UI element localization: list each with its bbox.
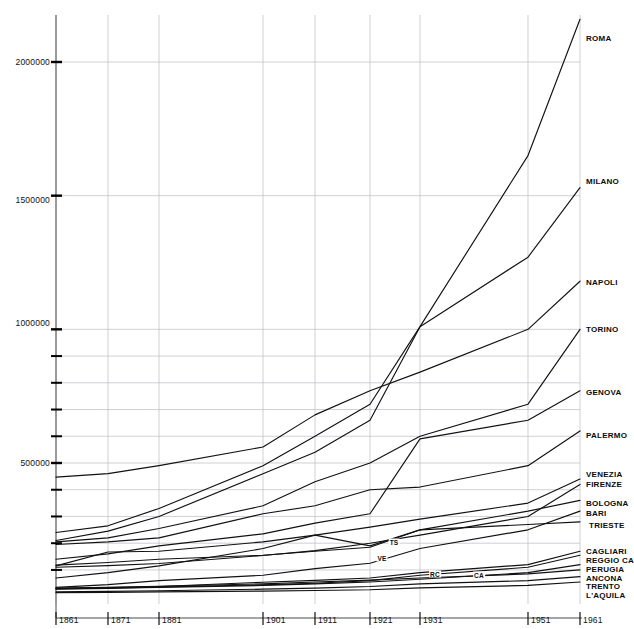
- series-label-l-aquila: L'AQUILA: [586, 591, 625, 600]
- series-line-ancona: [56, 570, 580, 588]
- series-line-roma: [56, 19, 580, 540]
- y-axis-tick-label: 500000: [20, 458, 50, 468]
- series-label-cagliari: CAGLIARI: [586, 547, 627, 556]
- series-label-roma: ROMA: [586, 34, 611, 43]
- x-axis-tick-label: 1861: [59, 615, 79, 625]
- inline-annotation-ca: CA: [473, 572, 485, 579]
- series-label-palermo: PALERMO: [586, 431, 627, 440]
- x-axis-tick-label: 1911: [318, 615, 337, 625]
- series-label-reggio-ca: REGGIO CA: [586, 556, 634, 565]
- series-label-trento: TRENTO: [586, 582, 620, 591]
- series-line-napoli: [56, 281, 580, 477]
- series-label-trieste: TRIESTE: [589, 521, 625, 530]
- series-label-firenze: FIRENZE: [586, 480, 622, 489]
- series-line-palermo: [56, 431, 580, 545]
- y-axis-tick-label: 2000000: [16, 57, 51, 67]
- series-label-torino: TORINO: [586, 325, 618, 334]
- series-lines-layer: [56, 19, 580, 592]
- inline-annotation-ve: VE: [376, 555, 387, 562]
- x-axis-tick-label: 1961: [583, 615, 603, 625]
- series-label-bari: BARI: [586, 509, 607, 518]
- inline-annotation-ts: TS: [389, 539, 400, 546]
- series-label-napoli: NAPOLI: [586, 278, 618, 287]
- y-axis-tick-label: 1500000: [16, 195, 51, 205]
- x-axis-tick-label: 1871: [111, 615, 131, 625]
- series-line-torino: [56, 329, 580, 542]
- x-axis-tick-label: 1921: [373, 615, 393, 625]
- y-axis-tick-label: 1000000: [16, 318, 51, 328]
- series-label-milano: MILANO: [586, 177, 619, 186]
- series-label-genova: GENOVA: [586, 388, 622, 397]
- x-axis-tick-label: 1931: [423, 615, 443, 625]
- series-label-venezia: VENEZIA: [586, 470, 622, 479]
- series-label-perugia: PERUGIA: [586, 565, 624, 574]
- series-label-bologna: BOLOGNA: [586, 499, 629, 508]
- x-axis-tick-label: 1951: [531, 615, 551, 625]
- x-axis-tick-label: 1881: [162, 615, 182, 625]
- x-axis-tick-label: 1901: [266, 615, 286, 625]
- inline-annotation-rc: RC: [429, 571, 441, 578]
